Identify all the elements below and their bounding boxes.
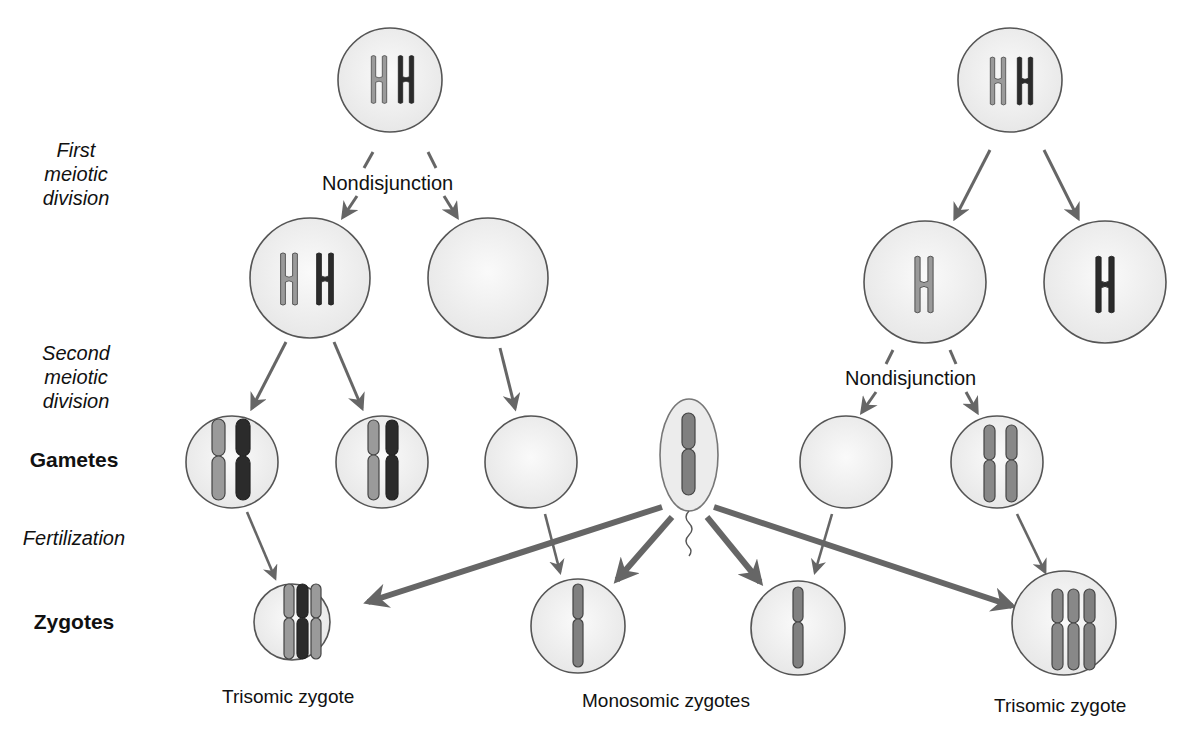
nondisjunction-diagram [0,0,1191,742]
label-gametes: Gametes [0,448,154,472]
label-line: meiotic [0,365,156,389]
first-division-cell-right-dark [1044,221,1166,343]
parent-cell-left [338,28,442,132]
label-line: First [0,138,156,162]
gamete-empty-left [485,416,577,508]
gamete-left-1 [186,416,278,508]
first-division-cell-right-light [864,221,986,343]
label-first-meiotic-division: First meiotic division [0,138,156,210]
parent-cell-right [958,28,1062,132]
label-line: division [0,186,156,210]
label-fertilization: Fertilization [0,526,154,550]
label-line: division [0,389,156,413]
zygote-trisomic-left [254,584,330,660]
label-line: meiotic [0,162,156,186]
zygote-monosomic-1 [531,579,625,673]
gamete-left-2 [336,416,428,508]
first-division-cell-left-both [250,218,370,338]
gamete-right-disomic [951,416,1043,508]
label-second-meiotic-division: Second meiotic division [0,341,156,413]
caption-monosomic-zygotes: Monosomic zygotes [582,690,750,712]
label-zygotes: Zygotes [0,610,154,634]
label-nondisjunction-first: Nondisjunction [322,172,453,195]
zygote-trisomic-right [1012,571,1116,675]
sperm-cell [660,399,718,556]
label-line: Second [0,341,156,365]
gamete-empty-right [800,416,892,508]
caption-trisomic-zygote-right: Trisomic zygote [994,695,1126,717]
label-nondisjunction-second: Nondisjunction [845,367,976,390]
caption-trisomic-zygote-left: Trisomic zygote [222,686,354,708]
first-division-cell-empty [428,218,548,338]
zygote-monosomic-2 [751,581,845,675]
